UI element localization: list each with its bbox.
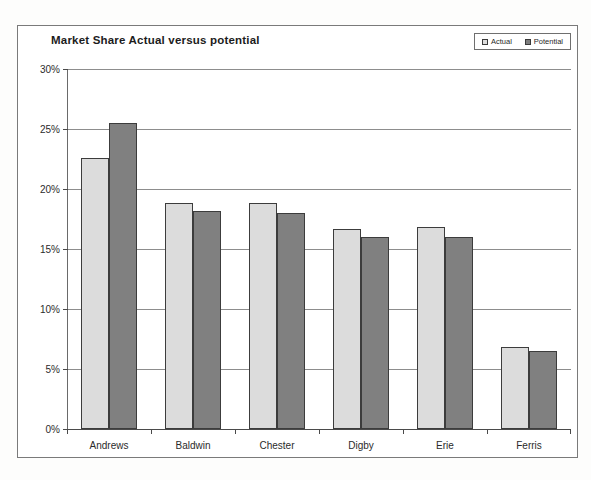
x-tick-mark	[487, 429, 488, 434]
x-tick-mark	[67, 429, 68, 434]
bar-potential-chester[interactable]	[277, 213, 305, 429]
y-tick-label: 20%	[40, 184, 60, 195]
x-tick-mark	[151, 429, 152, 434]
x-tick-mark	[319, 429, 320, 434]
legend-item-potential: Potential	[525, 37, 563, 46]
bar-group: Ferris	[487, 69, 571, 429]
x-tick-mark	[570, 429, 571, 434]
bar-actual-erie[interactable]	[417, 227, 445, 429]
bar-potential-digby[interactable]	[361, 237, 389, 429]
y-tick-label: 5%	[46, 364, 60, 375]
bar-actual-andrews[interactable]	[81, 158, 109, 429]
bar-group: Baldwin	[151, 69, 235, 429]
bar-group: Erie	[403, 69, 487, 429]
legend-label-potential: Potential	[534, 37, 563, 46]
bar-group: Andrews	[67, 69, 151, 429]
x-axis-label-baldwin: Baldwin	[175, 440, 210, 451]
x-axis-label-ferris: Ferris	[516, 440, 542, 451]
bar-actual-ferris[interactable]	[501, 347, 529, 429]
bar-actual-digby[interactable]	[333, 229, 361, 429]
bar-group: Digby	[319, 69, 403, 429]
bar-series-container: AndrewsBaldwinChesterDigbyErieFerris	[67, 69, 571, 429]
chart-frame: Market Share Actual versus potential Act…	[17, 25, 578, 458]
chart-title: Market Share Actual versus potential	[51, 34, 260, 46]
legend-item-actual: Actual	[482, 37, 512, 46]
x-axis-label-digby: Digby	[348, 440, 374, 451]
plot-area: 0%5%10%15%20%25%30% AndrewsBaldwinCheste…	[67, 69, 571, 429]
y-tick-label: 10%	[40, 304, 60, 315]
x-tick-mark	[235, 429, 236, 434]
x-tick-mark	[403, 429, 404, 434]
bar-actual-chester[interactable]	[249, 203, 277, 429]
bar-potential-erie[interactable]	[445, 237, 473, 429]
legend-swatch-potential-icon	[525, 39, 531, 45]
chart-legend: Actual Potential	[474, 33, 571, 50]
x-axis-label-erie: Erie	[436, 440, 454, 451]
legend-label-actual: Actual	[491, 37, 512, 46]
x-axis-label-andrews: Andrews	[90, 440, 129, 451]
legend-swatch-actual-icon	[482, 39, 488, 45]
bar-potential-ferris[interactable]	[529, 351, 557, 429]
y-tick-label: 25%	[40, 124, 60, 135]
y-tick-label: 15%	[40, 244, 60, 255]
bar-group: Chester	[235, 69, 319, 429]
y-tick-label: 0%	[46, 424, 60, 435]
bar-potential-baldwin[interactable]	[193, 211, 221, 429]
y-tick-label: 30%	[40, 64, 60, 75]
bar-actual-baldwin[interactable]	[165, 203, 193, 429]
x-axis-label-chester: Chester	[259, 440, 294, 451]
bar-potential-andrews[interactable]	[109, 123, 137, 429]
